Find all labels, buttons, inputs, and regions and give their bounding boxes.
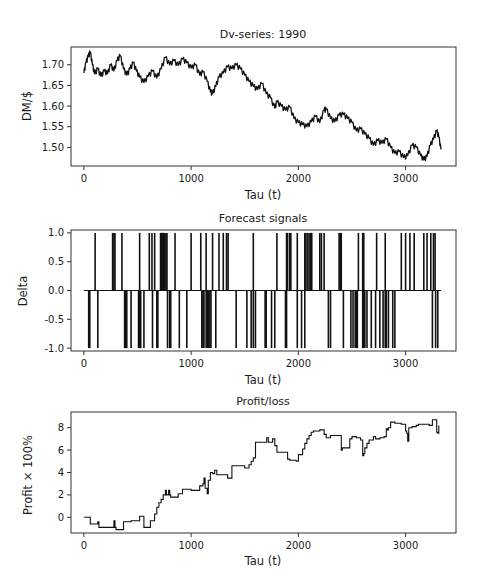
y-tick-label: 1.50 xyxy=(42,142,64,153)
y-tick-label: 2 xyxy=(58,489,64,500)
x-axis-label: Tau (t) xyxy=(244,188,282,202)
chart-title: Profit/loss xyxy=(236,395,290,408)
panel-dm-series: Dv-series: 1990 1.501.551.601.651.70 010… xyxy=(20,28,456,202)
dm-price-line xyxy=(84,51,441,161)
y-axis-label: Delta xyxy=(16,276,30,307)
y-tick-label: 1.65 xyxy=(42,80,64,91)
y-axis-label: Profit × 100% xyxy=(21,435,35,515)
y-tick-label: -1.0 xyxy=(44,343,64,354)
x-axis-ticks: 0100020003000 xyxy=(81,166,419,184)
y-tick-label: 8 xyxy=(58,422,64,433)
x-axis-ticks: 0100020003000 xyxy=(81,533,419,551)
y-tick-label: 1.70 xyxy=(42,59,64,70)
y-axis-ticks: 1.501.551.601.651.70 xyxy=(42,59,71,153)
profit-loss-line xyxy=(84,420,439,530)
panel-profit-loss: Profit/loss 02468 0100020003000 Tau (t) … xyxy=(21,395,456,568)
y-tick-label: 0.0 xyxy=(48,285,64,296)
x-tick-label: 3000 xyxy=(393,358,418,369)
x-tick-label: 0 xyxy=(81,173,87,184)
x-axis-label: Tau (t) xyxy=(244,554,282,568)
y-tick-label: -0.5 xyxy=(44,314,64,325)
panel-forecast-signals: Forecast signals -1.0-0.50.00.51.0 01000… xyxy=(16,212,456,387)
figure: Dv-series: 1990 1.501.551.601.651.70 010… xyxy=(0,0,481,582)
y-tick-label: 1.60 xyxy=(42,101,64,112)
x-axis-ticks: 0100020003000 xyxy=(81,351,419,369)
plot-frame xyxy=(71,412,456,533)
y-tick-label: 1.0 xyxy=(48,227,64,238)
y-tick-label: 0.5 xyxy=(48,256,64,267)
y-tick-label: 6 xyxy=(58,445,64,456)
y-tick-label: 0 xyxy=(58,512,64,523)
y-axis-ticks: -1.0-0.50.00.51.0 xyxy=(44,227,71,353)
x-tick-label: 0 xyxy=(81,358,87,369)
x-tick-label: 1000 xyxy=(178,540,203,551)
plot-frame xyxy=(71,47,456,166)
y-axis-ticks: 02468 xyxy=(58,422,71,523)
x-tick-label: 2000 xyxy=(286,540,311,551)
x-tick-label: 2000 xyxy=(286,173,311,184)
y-axis-label: DM/$ xyxy=(20,91,34,121)
x-tick-label: 0 xyxy=(81,540,87,551)
x-tick-label: 3000 xyxy=(393,173,418,184)
y-tick-label: 4 xyxy=(58,467,64,478)
x-tick-label: 1000 xyxy=(178,358,203,369)
y-tick-label: 1.55 xyxy=(42,121,64,132)
chart-title: Dv-series: 1990 xyxy=(220,28,306,41)
x-axis-label: Tau (t) xyxy=(244,373,282,387)
x-tick-label: 3000 xyxy=(393,540,418,551)
x-tick-label: 1000 xyxy=(178,173,203,184)
chart-title: Forecast signals xyxy=(219,212,308,225)
x-tick-label: 2000 xyxy=(286,358,311,369)
